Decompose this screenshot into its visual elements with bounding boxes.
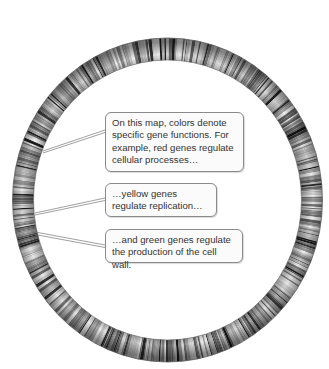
callout-replication: …yellow genes regulate replication… xyxy=(105,183,217,217)
callout-gene-colors: On this map, colors denote specific gene… xyxy=(105,112,244,172)
callout-cell-wall: …and green genes regulate the production… xyxy=(105,229,243,263)
